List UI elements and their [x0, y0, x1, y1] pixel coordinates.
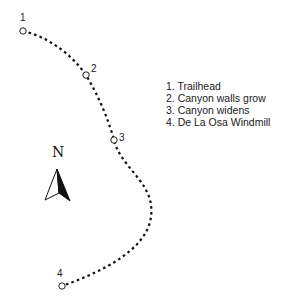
waypoint-label-2: 2: [91, 64, 97, 74]
legend-item-trailhead: 1. Trailhead: [166, 80, 270, 92]
waypoint-label-4: 4: [57, 269, 63, 279]
waypoint-marker-4: [59, 283, 65, 289]
legend-item-canyon-widens: 3. Canyon widens: [166, 104, 270, 116]
waypoint-label-1: 1: [20, 13, 26, 23]
waypoint-marker-2: [83, 72, 89, 78]
waypoint-label-3: 3: [119, 133, 125, 143]
compass-north-label: N: [52, 145, 64, 159]
legend-item-canyon-walls-grow: 2. Canyon walls grow: [166, 92, 270, 104]
map-canvas: [0, 0, 300, 304]
trail-route: [23, 31, 151, 286]
waypoint-marker-3: [111, 137, 117, 143]
legend-item-windmill: 4. De La Osa Windmill: [166, 116, 270, 128]
waypoint-markers: [20, 28, 117, 289]
map-legend: 1. Trailhead 2. Canyon walls grow 3. Can…: [166, 80, 270, 128]
north-arrow-icon: [45, 169, 70, 201]
waypoint-marker-1: [20, 28, 26, 34]
